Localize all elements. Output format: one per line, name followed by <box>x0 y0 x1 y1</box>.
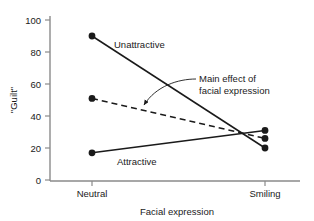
series-line-main-effect <box>92 98 265 138</box>
chart-figure: 100 80 60 40 20 0 "Guilt" Neutral Smilin… <box>0 0 314 221</box>
y-axis-title: "Guilt" <box>8 87 19 113</box>
point-attractive-smiling <box>262 127 269 134</box>
point-attractive-neutral <box>89 149 96 156</box>
y-tick-label-0: 0 <box>36 175 41 186</box>
x-axis-title: Facial expression <box>140 206 214 217</box>
point-main-effect-smiling <box>262 135 269 142</box>
y-tick-label-20: 20 <box>30 143 41 154</box>
annotation-line-1: Main effect of <box>199 73 256 84</box>
y-tick-label-80: 80 <box>30 47 41 58</box>
line-chart-canvas: 100 80 60 40 20 0 "Guilt" Neutral Smilin… <box>0 0 314 221</box>
annotation-line-2: facial expression <box>199 85 270 96</box>
y-tick-label-60: 60 <box>30 79 41 90</box>
point-unattractive-smiling <box>262 145 269 152</box>
series-line-attractive <box>92 130 265 152</box>
x-tick-label-neutral: Neutral <box>77 188 108 199</box>
series-label-unattractive: Unattractive <box>114 39 165 50</box>
point-unattractive-neutral <box>89 33 96 40</box>
y-tick-label-100: 100 <box>25 15 41 26</box>
series-label-attractive: Attractive <box>117 156 157 167</box>
point-main-effect-neutral <box>89 95 96 102</box>
annotation-arrow-icon <box>144 79 196 105</box>
y-tick-label-40: 40 <box>30 111 41 122</box>
x-tick-label-smiling: Smiling <box>249 188 280 199</box>
